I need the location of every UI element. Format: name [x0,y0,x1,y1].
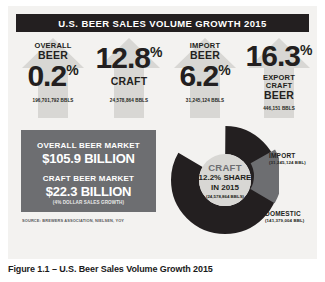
craft-share-donut-chart: CRAFT 12.2% SHARE IN 2015 (24,578,864 BB… [171,126,317,234]
donut-center-label: CRAFT [208,162,242,173]
percent-sign: % [66,62,78,78]
donut-center-year: IN 2015 [211,183,239,193]
stats-row: OVERALL BEER 0.2% 196,701,792 BBLS 12.8%… [8,36,317,124]
stat-volume: 31,245,124 BBLS [168,98,242,103]
craft-market-label: CRAFT BEER MARKET [21,174,156,183]
stat-volume: 196,701,792 BBLS [16,98,90,103]
donut-center-value: 12.2% SHARE [199,173,252,183]
legend-domestic-label: DOMESTIC [265,210,304,217]
percent-sign: % [218,62,230,78]
craft-market-note: (4% DOLLAR SALES GROWTH) [21,200,156,205]
stat-volume: 24,578,864 BBLS [90,98,168,103]
source-note: SOURCE: BREWERS ASSOCIATION, NIELSEN, YO… [22,218,124,223]
stat-label-line1: CRAFT [90,76,168,87]
stat-volume: 446,151 BBLS [242,106,316,111]
donut-center-text: CRAFT 12.2% SHARE IN 2015 (24,578,864 BB… [193,148,257,212]
infographic: U.S. BEER SALES VOLUME GROWTH 2015 OVERA… [8,6,317,259]
craft-market-value: $22.3 BILLION [21,184,156,199]
stat-value: 16.3% [242,42,316,69]
legend-domestic-value: (141,379,004 BBL) [265,218,304,223]
overall-market-label: OVERALL BEER MARKET [21,141,156,150]
figure-caption: Figure 1.1 – U.S. Beer Sales Volume Grow… [8,264,318,274]
legend-import-value: (31,245,124 BBL) [269,160,306,165]
donut-center-volume: (24,578,864 BBLS) [206,194,244,199]
legend-import: IMPORT (31,245,124 BBL) [269,152,306,165]
overall-market-value: $105.9 BILLION [21,151,156,166]
stat-value: 0.2% [16,62,90,89]
market-value-panel: OVERALL BEER MARKET $105.9 BILLION CRAFT… [21,130,156,212]
stat-label-line3: BEER [242,90,316,101]
legend-import-label: IMPORT [269,152,306,159]
stat-value: 12.8% [90,44,168,71]
stat-export-craft-beer: 16.3% EXPORT CRAFT BEER 446,151 BBLS [242,36,316,124]
header-title: U.S. BEER SALES VOLUME GROWTH 2015 [58,18,266,29]
stat-overall-beer: OVERALL BEER 0.2% 196,701,792 BBLS [16,36,90,124]
stat-value: 6.2% [168,62,242,89]
stat-import-beer: IMPORT BEER 6.2% 31,245,124 BBLS [168,36,242,124]
infographic-header: U.S. BEER SALES VOLUME GROWTH 2015 [16,14,309,32]
stat-craft: 12.8% CRAFT 24,578,864 BBLS [90,36,168,124]
legend-domestic: DOMESTIC (141,379,004 BBL) [265,210,304,223]
percent-sign: % [300,42,312,58]
screenshot-root: U.S. BEER SALES VOLUME GROWTH 2015 OVERA… [0,0,325,282]
percent-sign: % [150,44,162,60]
